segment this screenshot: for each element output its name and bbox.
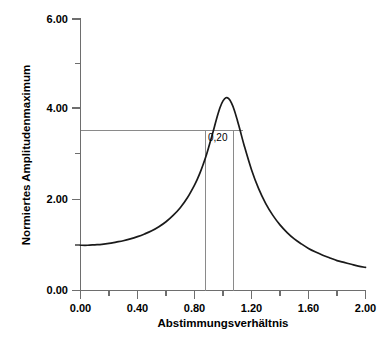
chart-figure: 0.00 2.00 4.00 6.00 0.00 0.40 0.80 1.20 … — [0, 0, 388, 339]
x-tick-label: 0.80 — [184, 302, 205, 314]
x-tick-label: 1.60 — [298, 302, 319, 314]
bandwidth-annotation-label: 0,20 — [208, 132, 228, 143]
y-tick-label: 2.00 — [47, 193, 68, 205]
x-tick-label: 1.20 — [241, 302, 262, 314]
y-tick-label: 4.00 — [47, 102, 68, 114]
x-tick-label: 0.00 — [70, 302, 91, 314]
resonance-curve-chart: 0.00 2.00 4.00 6.00 0.00 0.40 0.80 1.20 … — [0, 0, 388, 339]
x-axis-title: Abstimmungsverhältnis — [158, 317, 289, 329]
x-tick-label: 0.40 — [127, 302, 148, 314]
y-tick-label: 6.00 — [47, 13, 68, 25]
x-tick-label: 2.00 — [355, 302, 376, 314]
y-tick-label: 0.00 — [47, 284, 68, 296]
y-axis-title: Normiertes Amplitudenmaximum — [20, 65, 32, 245]
